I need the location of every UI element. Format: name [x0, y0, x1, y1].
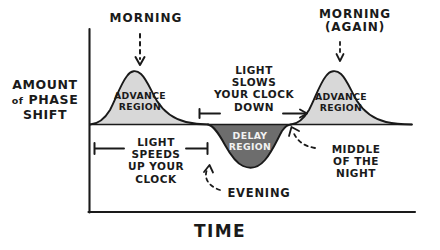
middle-night-arrow-icon	[289, 127, 315, 148]
morning-again-line2: (AGAIN)	[325, 20, 385, 34]
advance-region-label-2: ADVANCEREGION	[305, 92, 377, 113]
light-slows-line3: YOUR CLOCK	[214, 88, 294, 100]
light-speeds-line3: UP YOUR	[128, 160, 184, 172]
advance-region-2-line1: ADVANCE	[315, 91, 367, 102]
middle-night-line1: MIDDLE	[332, 143, 381, 155]
light-slows-clock-label: LIGHTSLOWSYOUR CLOCKDOWN	[196, 64, 312, 113]
y-axis-title-line1: AMOUNT	[12, 77, 77, 92]
light-speeds-line4: CLOCK	[135, 173, 176, 185]
phase-response-curve-figure	[0, 0, 440, 250]
morning-again-label: MORNING(AGAIN)	[303, 8, 407, 34]
y-axis-title: AMOUNTof PHASESHIFT	[2, 78, 88, 122]
light-speeds-clock-label: LIGHTSPEEDSUP YOURCLOCK	[106, 136, 206, 185]
advance-region-label-1: ADVANCEREGION	[104, 91, 176, 112]
morning-label: MORNING	[98, 12, 194, 25]
advance-region-1-line2: REGION	[119, 101, 161, 112]
y-axis-title-line3: SHIFT	[23, 107, 67, 122]
evening-label: EVENING	[219, 187, 299, 199]
light-slows-line4: DOWN	[234, 101, 274, 113]
light-slows-line2: SLOWS	[232, 76, 276, 88]
morning-again-arrow-icon	[337, 42, 344, 61]
middle-of-the-night-label: MIDDLEOF THENIGHT	[316, 143, 396, 180]
middle-night-line3: NIGHT	[336, 167, 376, 179]
advance-region-2-line2: REGION	[320, 102, 362, 113]
middle-night-line2: OF THE	[333, 155, 379, 167]
y-axis-title-of: of	[12, 95, 24, 106]
delay-region-line2: REGION	[229, 141, 271, 152]
light-speeds-line1: LIGHT	[137, 136, 175, 148]
y-axis-title-line2: PHASE	[28, 92, 78, 107]
morning-arrow-icon	[136, 34, 145, 65]
x-axis-title: TIME	[150, 222, 290, 240]
light-speeds-line2: SPEEDS	[132, 148, 181, 160]
advance-region-1-line1: ADVANCE	[114, 90, 166, 101]
morning-again-line1: MORNING	[319, 7, 391, 21]
light-slows-line1: LIGHT	[235, 64, 273, 76]
delay-region-line1: DELAY	[233, 130, 268, 141]
delay-region-label: DELAYREGION	[214, 131, 286, 152]
evening-arrow-icon	[204, 165, 220, 190]
